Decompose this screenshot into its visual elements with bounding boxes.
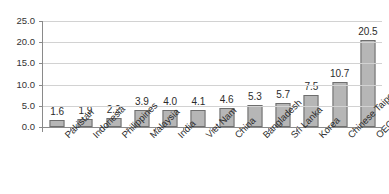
x-tick-mark xyxy=(296,127,297,132)
bars-layer: 1.61.92.23.94.04.14.65.35.77.510.720.5 xyxy=(43,21,382,127)
x-axis-category-label: Korea xyxy=(317,133,324,140)
gridline xyxy=(43,106,382,107)
x-tick-mark xyxy=(127,127,128,132)
y-tick-mark xyxy=(39,85,43,86)
bar-value-label: 4.6 xyxy=(220,95,234,105)
bar-value-label: 20.5 xyxy=(358,27,377,37)
y-tick-mark xyxy=(39,106,43,107)
x-tick-mark xyxy=(353,127,354,132)
x-tick-mark xyxy=(240,127,241,132)
y-tick-label: 20.0 xyxy=(1,37,35,47)
gridline xyxy=(43,21,382,22)
gridline xyxy=(43,42,382,43)
x-axis-category-label: Pakistan xyxy=(63,133,70,140)
y-tick-mark xyxy=(39,21,43,22)
x-tick-mark xyxy=(42,127,43,132)
x-axis-category-label: Philippines xyxy=(120,133,127,140)
y-tick-mark xyxy=(39,63,43,64)
bar-value-label: 1.6 xyxy=(50,107,64,117)
y-tick-label: 25.0 xyxy=(1,16,35,26)
y-tick-label: 15.0 xyxy=(1,58,35,68)
bar-chart: 1.61.92.23.94.04.14.65.35.77.510.720.5 P… xyxy=(0,0,389,194)
x-axis-category-label: Chinese Taipei xyxy=(346,133,353,140)
x-axis-category-label: Viet Nam xyxy=(204,133,211,140)
bar-value-label: 5.3 xyxy=(248,92,262,102)
x-axis-labels: PakistanIndonesiaPhilippinesMalaysiaIndi… xyxy=(42,133,381,191)
y-tick-label: 0.0 xyxy=(1,122,35,132)
x-tick-mark xyxy=(268,127,269,132)
gridline xyxy=(43,85,382,86)
y-tick-label: 5.0 xyxy=(1,101,35,111)
x-tick-mark xyxy=(325,127,326,132)
bar-slot: 10.7 xyxy=(326,21,354,127)
x-axis-category-label: Malaysia xyxy=(148,133,155,140)
x-tick-mark xyxy=(99,127,100,132)
bar-value-label: 5.7 xyxy=(276,90,290,100)
bar-slot: 1.6 xyxy=(43,21,71,127)
bar-value-label: 10.7 xyxy=(330,69,349,79)
x-tick-mark xyxy=(381,127,382,132)
x-axis-category-label: India xyxy=(176,133,183,140)
x-axis-category-label: China xyxy=(233,133,240,140)
bar[interactable] xyxy=(50,120,65,127)
x-axis-category-label: Sri Lanka xyxy=(289,133,296,140)
bar-slot: 4.1 xyxy=(184,21,212,127)
y-tick-mark xyxy=(39,42,43,43)
x-axis-category-label: Indonesia xyxy=(91,133,98,140)
x-tick-mark xyxy=(70,127,71,132)
y-tick-label: 10.0 xyxy=(1,80,35,90)
x-axis-category-label: OECD-30 xyxy=(374,133,381,140)
gridline xyxy=(43,63,382,64)
x-axis-category-label: Bangladesh xyxy=(261,133,268,140)
bar-slot: 5.3 xyxy=(241,21,269,127)
x-tick-mark xyxy=(212,127,213,132)
x-tick-mark xyxy=(155,127,156,132)
x-tick-mark xyxy=(183,127,184,132)
